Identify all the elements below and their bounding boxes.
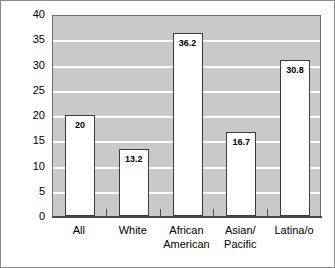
- y-axis: 0510152025303540: [1, 1, 52, 268]
- x-axis-tick-mark: [213, 209, 214, 216]
- plot-area: 2013.236.216.730.8: [52, 15, 321, 217]
- y-axis-tick-label: 20: [33, 110, 45, 121]
- y-axis-tick-label: 35: [33, 34, 45, 45]
- bar-value-label: 30.8: [281, 65, 309, 75]
- x-axis-tick-label: African American: [160, 223, 214, 251]
- bar: 36.2: [173, 33, 203, 216]
- x-axis-tick-mark: [267, 209, 268, 216]
- y-axis-tick-label: 25: [33, 85, 45, 96]
- bar: 13.2: [119, 149, 149, 216]
- bar-value-label: 13.2: [120, 154, 148, 164]
- x-axis-tick-label: Latina/o: [267, 223, 321, 237]
- x-axis-line: [52, 216, 322, 218]
- bar: 30.8: [280, 60, 310, 216]
- y-axis-tick-label: 15: [33, 135, 45, 146]
- x-axis-tick-label: All: [52, 223, 106, 237]
- bar-value-label: 16.7: [227, 137, 255, 147]
- y-axis-tick-label: 5: [39, 186, 45, 197]
- bar-chart-figure: 2013.236.216.730.8 0510152025303540 AllW…: [0, 0, 335, 268]
- bar: 20: [65, 115, 95, 216]
- x-axis-tick-mark: [106, 209, 107, 216]
- bar: 16.7: [226, 132, 256, 216]
- y-axis-tick-label: 0: [39, 211, 45, 222]
- bar-value-label: 36.2: [174, 38, 202, 48]
- y-axis-tick-label: 40: [33, 9, 45, 20]
- bar-value-label: 20: [66, 120, 94, 130]
- y-axis-tick-label: 30: [33, 60, 45, 71]
- x-axis-tick-label: White: [106, 223, 160, 237]
- x-axis-tick-mark: [160, 209, 161, 216]
- y-axis-tick-label: 10: [33, 161, 45, 172]
- x-axis-tick-label: Asian/ Pacific: [213, 223, 267, 251]
